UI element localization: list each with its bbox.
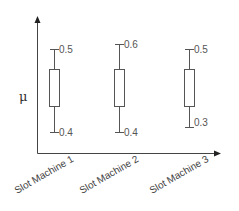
- category-label-1: Slot Machine 1: [13, 153, 76, 196]
- annotation-low: 0.3: [194, 117, 208, 128]
- box-slot-machine-2: 0.6 0.4: [115, 39, 139, 138]
- box-slot-machine-1: 0.5 0.4: [50, 44, 74, 138]
- y-axis-label: μ: [19, 89, 27, 104]
- chart-canvas: μ 0.5 0.4 0.6 0.4 0.5 0.3 Slot Machine 1…: [0, 0, 239, 211]
- box-slot-machine-3: 0.5 0.3: [185, 44, 209, 128]
- category-label-3: Slot Machine 3: [148, 153, 211, 196]
- x-axis-arrow-icon: [214, 151, 221, 157]
- annotation-low: 0.4: [59, 127, 73, 138]
- category-label-2: Slot Machine 2: [78, 153, 141, 196]
- annotation-low: 0.4: [124, 127, 138, 138]
- y-axis-arrow-icon: [35, 16, 41, 23]
- annotation-high: 0.5: [59, 44, 73, 55]
- annotation-high: 0.5: [194, 44, 208, 55]
- annotation-high: 0.6: [124, 39, 138, 50]
